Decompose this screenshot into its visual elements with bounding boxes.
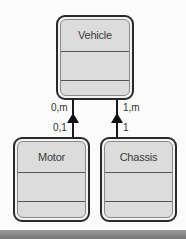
method-divider xyxy=(18,201,85,202)
class-box-vehicle-inner: Vehicle xyxy=(60,19,130,96)
class-name-chassis: Chassis xyxy=(105,151,172,163)
attribute-divider xyxy=(105,172,172,173)
class-box-motor-inner: Motor xyxy=(17,141,86,218)
method-divider xyxy=(105,201,172,202)
multiplicity-vehicle-motor: 0,m xyxy=(51,103,68,113)
class-box-chassis-inner: Chassis xyxy=(104,141,173,218)
multiplicity-vehicle-chassis: 1,m xyxy=(123,103,140,113)
class-name-vehicle: Vehicle xyxy=(61,29,129,41)
multiplicity-chassis: 1 xyxy=(123,123,129,133)
multiplicity-motor: 0,1 xyxy=(53,123,67,133)
aggregation-arrow-chassis-icon xyxy=(111,113,123,123)
class-box-vehicle: Vehicle xyxy=(56,15,134,100)
attribute-divider xyxy=(61,51,129,52)
class-name-motor: Motor xyxy=(18,151,85,163)
aggregation-arrow-motor-icon xyxy=(67,113,79,123)
bottom-border-bar xyxy=(0,230,186,239)
method-divider xyxy=(61,80,129,81)
class-box-chassis: Chassis xyxy=(100,137,177,222)
attribute-divider xyxy=(18,172,85,173)
class-box-motor: Motor xyxy=(13,137,90,222)
